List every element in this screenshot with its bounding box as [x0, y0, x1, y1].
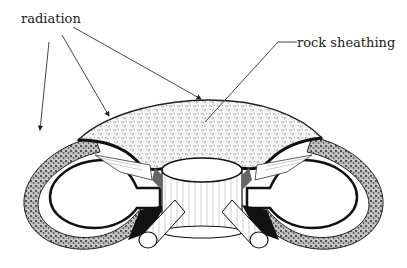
rock-sheathing-label: rock sheathing — [297, 36, 395, 49]
radiation-label: radiation — [21, 12, 81, 25]
